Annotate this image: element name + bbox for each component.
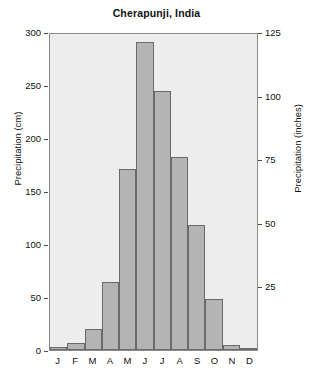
x-tick-label: J xyxy=(154,355,171,371)
x-tick-label: N xyxy=(223,355,240,371)
x-tick-label: A xyxy=(101,355,118,371)
bar-slot xyxy=(67,34,84,350)
bar-n-10 xyxy=(223,345,240,350)
precipitation-bar-chart: Cherapunji, India Precipitation (cm) Pre… xyxy=(0,0,313,380)
bar-slot xyxy=(85,34,102,350)
y-tick-label-right: 25 xyxy=(265,282,276,292)
x-tick-label: F xyxy=(66,355,83,371)
x-tick-label: S xyxy=(188,355,205,371)
plot-area xyxy=(49,33,258,351)
x-tick-label: J xyxy=(49,355,66,371)
y-tick-left xyxy=(44,351,48,352)
y-tick-label-left: 150 xyxy=(25,187,41,197)
bar-o-9 xyxy=(205,299,222,350)
bar-d-11 xyxy=(240,348,257,350)
bar-slot xyxy=(223,34,240,350)
bar-slot xyxy=(188,34,205,350)
x-tick-label: M xyxy=(84,355,101,371)
y-tick-right xyxy=(258,224,262,225)
x-tick-label: D xyxy=(241,355,258,371)
bar-j-0 xyxy=(50,347,67,350)
y-tick-label-left: 0 xyxy=(36,346,41,356)
x-tick-label: A xyxy=(171,355,188,371)
y-tick-left xyxy=(44,33,48,34)
y-tick-label-left: 200 xyxy=(25,134,41,144)
y-tick-label-right: 75 xyxy=(265,155,276,165)
bar-slot xyxy=(240,34,257,350)
y-tick-left xyxy=(44,86,48,87)
bar-j-5 xyxy=(136,42,153,350)
bar-s-8 xyxy=(188,225,205,350)
y-axis-label-left: Precipitation (cm) xyxy=(12,89,23,209)
y-tick-right xyxy=(258,33,262,34)
y-tick-label-left: 300 xyxy=(25,28,41,38)
bar-slot xyxy=(171,34,188,350)
bar-m-4 xyxy=(119,169,136,350)
bar-a-7 xyxy=(171,157,188,350)
x-tick-label: J xyxy=(136,355,153,371)
y-tick-right xyxy=(258,287,262,288)
y-tick-label-right: 100 xyxy=(265,92,281,102)
bar-f-1 xyxy=(67,343,84,350)
y-tick-right xyxy=(258,97,262,98)
y-tick-left xyxy=(44,139,48,140)
y-tick-right xyxy=(258,160,262,161)
y-axis-label-right: Precipitation (inches) xyxy=(292,89,303,209)
chart-title: Cherapunji, India xyxy=(0,7,313,19)
y-tick-left xyxy=(44,192,48,193)
bar-slot xyxy=(50,34,67,350)
bar-j-6 xyxy=(154,91,171,350)
bar-series xyxy=(50,34,257,350)
x-tick-label: O xyxy=(206,355,223,371)
bar-slot xyxy=(119,34,136,350)
y-tick-label-left: 250 xyxy=(25,81,41,91)
y-tick-label-left: 50 xyxy=(30,293,41,303)
y-tick-label-right: 50 xyxy=(265,219,276,229)
y-tick-left xyxy=(44,245,48,246)
bar-m-2 xyxy=(85,329,102,350)
bar-slot xyxy=(136,34,153,350)
bar-slot xyxy=(154,34,171,350)
y-tick-label-left: 100 xyxy=(25,240,41,250)
bar-slot xyxy=(205,34,222,350)
x-axis-tick-labels: JFMAMJJASOND xyxy=(49,355,258,371)
bar-a-3 xyxy=(102,282,119,350)
y-tick-left xyxy=(44,298,48,299)
y-tick-label-right: 125 xyxy=(265,28,281,38)
x-tick-label: M xyxy=(119,355,136,371)
bar-slot xyxy=(102,34,119,350)
